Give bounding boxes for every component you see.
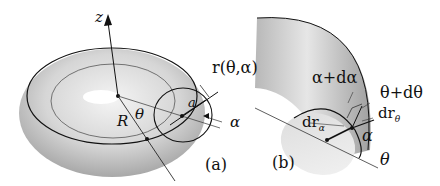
torus-body — [19, 49, 205, 177]
torus-diagram: z r(θ,α) R θ a α (a) α+dα θ+dθ drθ drα α… — [0, 0, 440, 186]
alpha-label: α — [362, 128, 373, 144]
z-axis-label: z — [95, 10, 103, 25]
theta-plus-dtheta-label: θ+dθ — [380, 85, 423, 101]
dr-alpha-label: drα — [302, 115, 325, 133]
position-vector-label: r(θ,α) — [212, 60, 258, 76]
panel-b-caption: (b) — [272, 155, 295, 171]
panel-a-caption: (a) — [205, 157, 227, 173]
alpha-plus-dalpha-label: α+dα — [312, 70, 357, 86]
poloidal-angle-label: α — [230, 115, 240, 130]
z-axis-arrow-icon — [104, 14, 112, 26]
minor-radius-label: a — [188, 96, 196, 109]
major-radius-label: R — [117, 114, 128, 129]
theta-label: θ — [380, 152, 390, 168]
toroidal-angle-label: θ — [135, 107, 144, 122]
torus-hole — [83, 90, 119, 104]
dr-theta-label: drθ — [378, 106, 400, 124]
